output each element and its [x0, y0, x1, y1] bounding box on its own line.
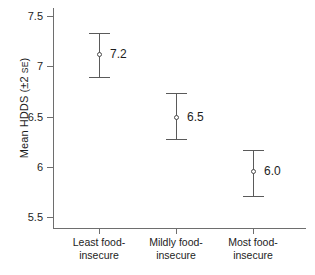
x-axis-tick-label-line1: Most food- — [205, 236, 301, 249]
data-point-marker — [251, 169, 256, 174]
y-axis-tick — [47, 66, 53, 67]
chart-container: Mean HDDS (±2 SE) 7.5 7 6.5 6 5.5 Least … — [0, 0, 315, 275]
y-axis-tick-label: 7 — [3, 61, 43, 72]
x-axis-line — [53, 228, 306, 229]
x-axis-tick — [99, 229, 100, 234]
y-axis-title: Mean HDDS (±2 SE) — [18, 38, 30, 178]
y-axis-tick-label: 6 — [3, 162, 43, 173]
x-axis-tick-label-most: Most food- insecure — [205, 236, 301, 262]
data-point-marker — [174, 115, 179, 120]
errorbar-cap-lower — [166, 139, 187, 140]
data-point-label: 7.2 — [110, 48, 127, 60]
y-axis-tick — [47, 117, 53, 118]
y-axis-tick — [47, 217, 53, 218]
errorbar-cap-lower — [243, 196, 264, 197]
x-axis-tick — [253, 229, 254, 234]
errorbar-cap-lower — [89, 77, 110, 78]
y-axis-tick — [47, 167, 53, 168]
data-point-label: 6.5 — [187, 111, 204, 123]
x-axis-tick-label-line2: insecure — [205, 249, 301, 262]
y-axis-tick-label: 5.5 — [3, 212, 43, 223]
y-axis-tick-label: 7.5 — [3, 11, 43, 22]
y-axis-tick — [47, 16, 53, 17]
x-axis-tick — [176, 229, 177, 234]
y-axis-tick-label: 6.5 — [3, 112, 43, 123]
y-axis-line — [53, 8, 54, 229]
data-point-label: 6.0 — [264, 165, 281, 177]
data-point-marker — [97, 52, 102, 57]
